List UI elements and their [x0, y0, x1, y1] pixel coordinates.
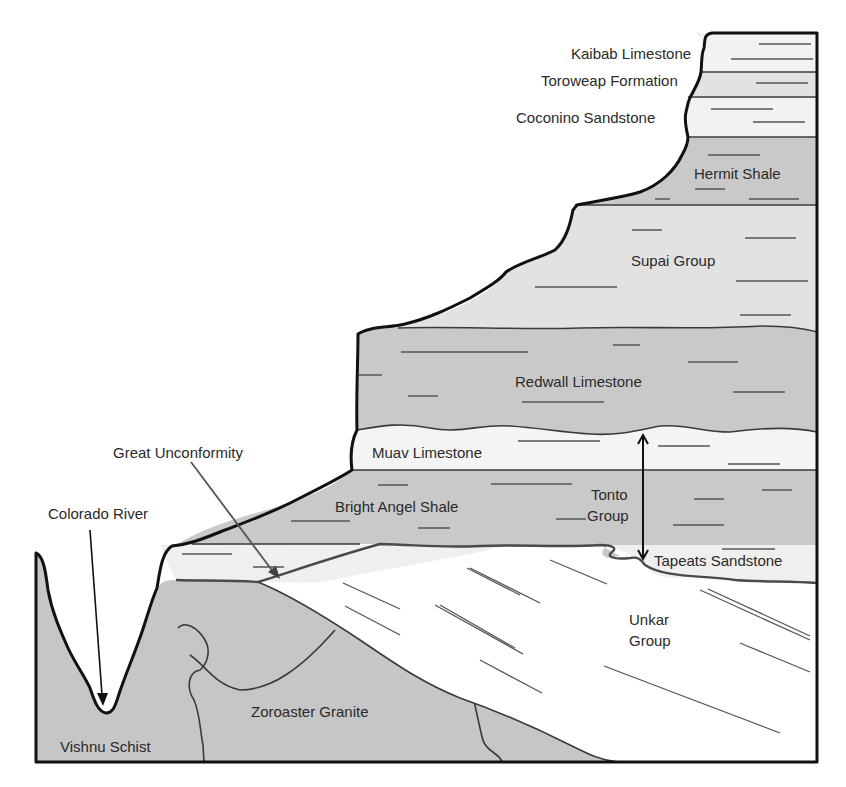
label-tapeats-sandstone: Tapeats Sandstone: [654, 552, 782, 569]
label-supai-group: Supai Group: [631, 252, 715, 269]
supai-group: [398, 205, 817, 332]
label-unkar-line2: Group: [629, 632, 671, 649]
coconino-sandstone: [685, 97, 817, 137]
label-colorado-river: Colorado River: [48, 505, 148, 522]
label-kaibab-limestone: Kaibab Limestone: [571, 45, 691, 62]
label-tonto-line1: Tonto: [591, 486, 628, 503]
label-coconino-sandstone: Coconino Sandstone: [516, 109, 655, 126]
kaibab-limestone: [696, 33, 817, 72]
label-toroweap-formation: Toroweap Formation: [541, 72, 678, 89]
label-zoroaster-granite: Zoroaster Granite: [251, 703, 369, 720]
colorado-river-arrow-icon: [90, 530, 108, 706]
label-tonto-line2: Group: [587, 507, 629, 524]
label-unkar-line1: Unkar: [629, 611, 669, 628]
toroweap-formation: [688, 72, 817, 97]
label-muav-limestone: Muav Limestone: [372, 444, 482, 461]
grand-canyon-cross-section: Kaibab Limestone Toroweap Formation Coco…: [0, 0, 846, 787]
label-vishnu-schist: Vishnu Schist: [60, 738, 151, 755]
label-great-unconformity: Great Unconformity: [113, 444, 244, 461]
label-bright-angel-shale: Bright Angel Shale: [335, 498, 458, 515]
label-hermit-shale: Hermit Shale: [694, 165, 781, 182]
label-redwall-limestone: Redwall Limestone: [515, 373, 642, 390]
